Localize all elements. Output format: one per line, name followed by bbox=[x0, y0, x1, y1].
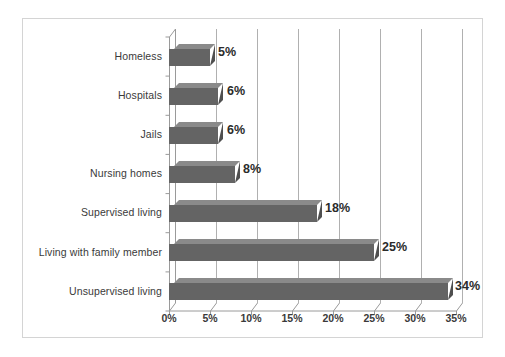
x-tick-label-25: 25% bbox=[354, 312, 394, 324]
x-tick-label-35: 35% bbox=[436, 312, 476, 324]
x-tick-label-10: 10% bbox=[231, 312, 271, 324]
x-tick-label-30: 30% bbox=[395, 312, 435, 324]
x-tick-label-20: 20% bbox=[313, 312, 353, 324]
x-tick-label-0: 0% bbox=[149, 312, 189, 324]
x-tick-label-5: 5% bbox=[190, 312, 230, 324]
value-axis-labels: 0% 5% 10% 15% 20% 25% 30% 35% bbox=[0, 0, 505, 357]
x-tick-label-15: 15% bbox=[272, 312, 312, 324]
